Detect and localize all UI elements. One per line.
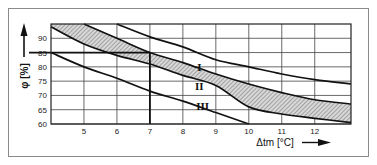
x-tick-label: 5 — [82, 127, 87, 136]
y-axis-label-group: φ [%] — [19, 23, 30, 89]
y-tick-label: 70 — [38, 91, 47, 100]
x-tick-label: 6 — [115, 127, 120, 136]
y-axis-label: φ [%] — [19, 63, 30, 88]
reference-lines — [29, 53, 150, 124]
y-tick-label: 65 — [38, 106, 47, 115]
y-tick-label: 90 — [38, 34, 47, 43]
x-axis-label-group: Δtm [°C] — [256, 137, 331, 148]
y-tick-label: 60 — [38, 120, 47, 129]
chart: 56789101112 60657075808590 IIIIII φ [%] … — [0, 0, 377, 165]
region-label: II — [195, 80, 204, 92]
x-tick-label: 9 — [214, 127, 219, 136]
y-tick-label: 80 — [38, 63, 47, 72]
region-label: I — [197, 61, 201, 73]
x-tick-label: 7 — [148, 127, 153, 136]
x-tick-label: 11 — [278, 127, 287, 136]
x-arrow-head-icon — [318, 139, 331, 146]
y-ticks: 60657075808590 — [38, 34, 47, 129]
curve-band-upper — [84, 24, 351, 104]
y-tick-label: 85 — [38, 49, 47, 58]
x-tick-label: 12 — [310, 127, 319, 136]
y-arrow-head-icon — [21, 23, 28, 36]
x-ticks: 56789101112 — [82, 127, 320, 136]
x-axis-label: Δtm [°C] — [256, 137, 294, 148]
y-tick-label: 75 — [38, 77, 47, 86]
x-tick-label: 8 — [181, 127, 186, 136]
x-tick-label: 10 — [244, 127, 253, 136]
region-label: III — [196, 100, 209, 112]
